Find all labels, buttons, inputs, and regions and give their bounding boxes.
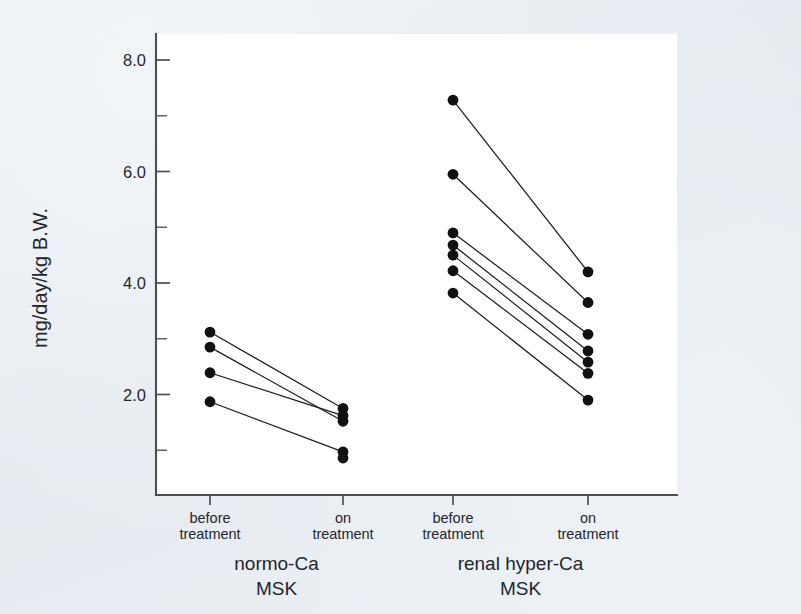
figure-panel: 2.04.06.08.0 mg/day/kg B.W. beforetreatm…	[0, 0, 801, 614]
group-label-line: MSK	[500, 578, 542, 599]
y-tick-label: 8.0	[123, 51, 146, 69]
y-tick-label: 2.0	[123, 386, 146, 404]
group-label-line: MSK	[256, 578, 298, 599]
paired-dot-plot-chart: 2.04.06.08.0 mg/day/kg B.W. beforetreatm…	[0, 0, 801, 614]
y-axis-title: mg/day/kg B.W.	[29, 208, 51, 348]
y-axis-tick-labels: 2.04.06.08.0	[123, 51, 146, 404]
data-point	[448, 240, 459, 251]
x-tick-label-line: treatment	[179, 526, 240, 542]
data-point	[205, 342, 216, 353]
data-point	[205, 327, 216, 338]
x-tick-label-line: treatment	[422, 526, 483, 542]
x-tick-label-line: on	[580, 510, 596, 526]
plot-area-background	[156, 34, 677, 495]
data-point	[448, 265, 459, 276]
data-point	[448, 227, 459, 238]
x-tick-label-line: treatment	[557, 526, 618, 542]
group-label-line: renal hyper-Ca	[458, 553, 584, 574]
data-point	[448, 169, 459, 180]
x-tick-label-line: before	[432, 510, 473, 526]
data-point	[583, 368, 594, 379]
data-point	[583, 329, 594, 340]
y-tick-label: 6.0	[123, 163, 146, 181]
y-tick-label: 4.0	[123, 274, 146, 292]
data-point	[448, 95, 459, 106]
data-point	[583, 395, 594, 406]
data-point	[583, 346, 594, 357]
x-axis-tick-labels: beforetreatmentontreatmentbeforetreatmen…	[179, 510, 618, 542]
data-point	[448, 250, 459, 261]
group-label-line: normo-Ca	[234, 553, 319, 574]
data-point	[583, 357, 594, 368]
x-axis-ticks	[210, 495, 588, 505]
data-point	[583, 297, 594, 308]
data-point	[205, 396, 216, 407]
group-labels: normo-CaMSKrenal hyper-CaMSK	[234, 553, 584, 599]
data-point	[338, 453, 349, 464]
x-tick-label-line: before	[189, 510, 230, 526]
data-point	[583, 266, 594, 277]
x-tick-label-line: on	[335, 510, 351, 526]
data-point	[205, 367, 216, 378]
x-tick-label-line: treatment	[312, 526, 373, 542]
data-point	[448, 288, 459, 299]
data-point	[338, 410, 349, 421]
